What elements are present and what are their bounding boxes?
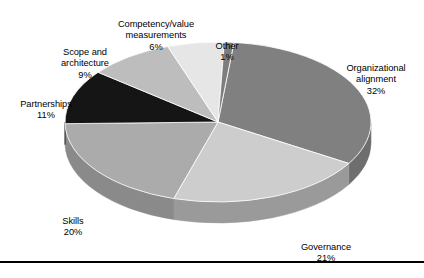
slice-label-value: 32%: [328, 86, 424, 97]
slice-label-value: 6%: [102, 42, 210, 53]
slice-label-text: Governance: [301, 242, 351, 252]
slice-label-text: Other: [215, 41, 238, 51]
slice-label-value: 20%: [36, 227, 110, 238]
slice-label-value: 9%: [40, 70, 130, 81]
slice-label-governance: Governance 21%: [278, 231, 374, 276]
slice-label-value: 1%: [204, 52, 250, 63]
slice-label-text: Organizational alignment: [346, 63, 405, 84]
slice-label-organizational-alignment: Organizational alignment 32%: [328, 52, 424, 108]
slice-label-value: 11%: [2, 110, 90, 121]
bottom-divider-rule: [0, 261, 424, 263]
slice-label-competency-value-measurements: Competency/value measurements 6%: [102, 8, 210, 64]
pie-chart-figure: Organizational alignment 32% Governance …: [0, 0, 424, 278]
slice-label-other: Other 1%: [204, 30, 250, 75]
slice-label-text: Partnerships: [20, 99, 72, 109]
slice-label-text: Competency/value measurements: [118, 19, 194, 40]
slice-label-skills: Skills 20%: [36, 205, 110, 250]
slice-label-partnerships: Partnerships 11%: [2, 88, 90, 133]
slice-label-text: Skills: [62, 216, 83, 226]
